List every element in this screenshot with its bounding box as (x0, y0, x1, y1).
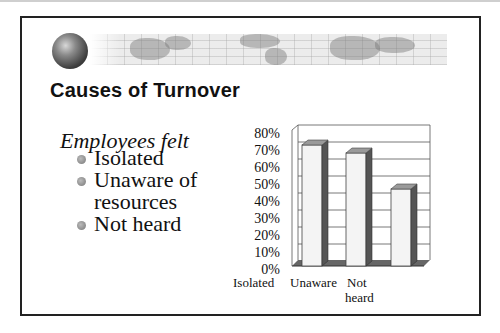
y-tick: 40% (254, 194, 280, 210)
bullet-item: Unaware of (74, 169, 197, 191)
x-label-unaware: Unaware (290, 275, 337, 291)
map-landmass (375, 37, 415, 53)
map-landmass (265, 48, 287, 65)
bullet-item: Not heard (74, 213, 197, 235)
bar-unaware (346, 148, 372, 266)
slide-title: Causes of Turnover (50, 79, 240, 102)
bar-isolated (302, 140, 328, 266)
x-label-heard: heard (345, 290, 374, 306)
x-label-isolated: Isolated (233, 275, 274, 291)
map-landmass (330, 36, 380, 60)
y-tick: 70% (254, 143, 280, 159)
y-tick: 80% (254, 126, 280, 142)
bar-not-heard (391, 184, 417, 266)
bullet-icon (77, 177, 86, 186)
bullet-icon (77, 155, 86, 164)
y-tick: 50% (254, 177, 280, 193)
map-landmass (240, 34, 280, 48)
x-label-not: Not (347, 275, 367, 291)
bullet-continuation: resources (74, 191, 197, 213)
world-map-banner (90, 34, 447, 65)
y-tick: 60% (254, 160, 280, 176)
y-tick: 30% (254, 211, 280, 227)
y-tick: 20% (254, 228, 280, 244)
map-landmass (130, 38, 170, 60)
bar-chart (290, 122, 432, 268)
map-landmass (165, 36, 191, 50)
bullet-item: Isolated (74, 147, 197, 169)
bullet-list: Isolated Unaware of resources Not heard (74, 147, 197, 235)
globe-icon (52, 33, 88, 69)
top-rule (0, 0, 500, 2)
bullet-icon (77, 221, 86, 230)
y-tick: 10% (254, 245, 280, 261)
